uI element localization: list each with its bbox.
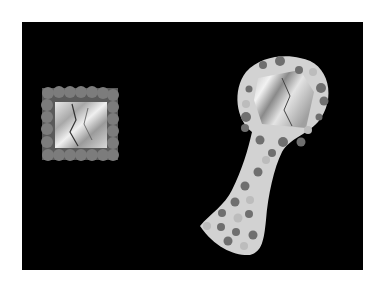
square-mirror-frame xyxy=(41,86,119,161)
scene-illustration xyxy=(0,0,386,289)
hand-mirror xyxy=(200,56,329,255)
